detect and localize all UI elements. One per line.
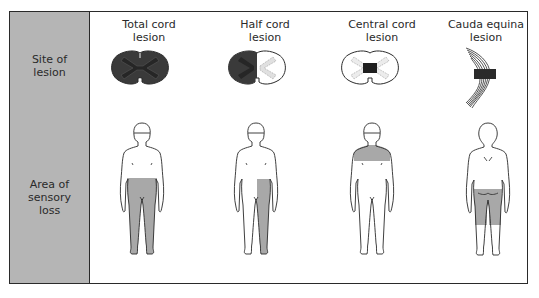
cord-section-total — [112, 51, 169, 84]
body-figure-half — [234, 123, 277, 254]
body-figure-central — [350, 123, 393, 254]
sensory-loss-area-central — [354, 145, 390, 161]
cord-section-half — [229, 51, 286, 84]
sensory-loss-area-cauda — [474, 189, 502, 225]
body-figure-total — [120, 123, 163, 254]
sensory-loss-area-total — [127, 178, 157, 254]
cord-section-central — [342, 51, 399, 84]
body-figure-cauda — [466, 123, 509, 255]
cauda-equina-nerves — [466, 48, 496, 108]
diagram-art — [0, 0, 539, 298]
cauda-lesion-block — [474, 69, 496, 79]
